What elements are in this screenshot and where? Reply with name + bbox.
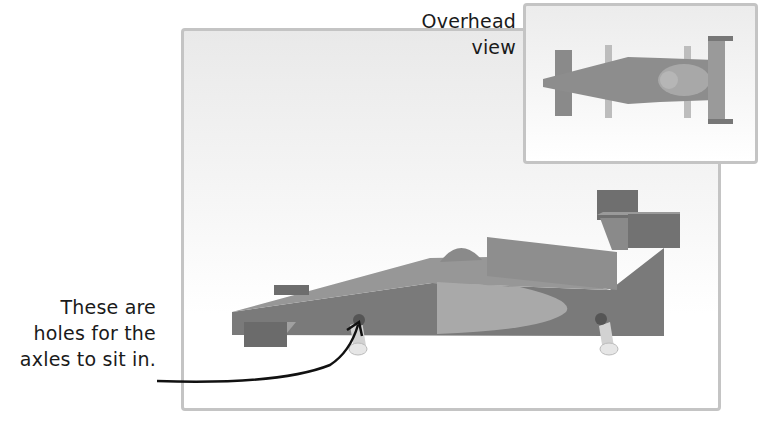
axle-holes-callout: These are holes for the axles to sit in. — [0, 294, 156, 372]
overhead-label-line1: Overhead — [392, 8, 516, 34]
overhead-helmet-icon — [660, 71, 678, 89]
overhead-label-line2: view — [392, 34, 516, 60]
callout-line2: holes for the — [0, 320, 156, 346]
overhead-car-illustration — [0, 0, 780, 441]
callout-line3: axles to sit in. — [0, 346, 156, 372]
overhead-view-label: Overhead view — [392, 8, 516, 60]
overhead-rear-wing — [708, 36, 725, 124]
callout-line1: These are — [0, 294, 156, 320]
